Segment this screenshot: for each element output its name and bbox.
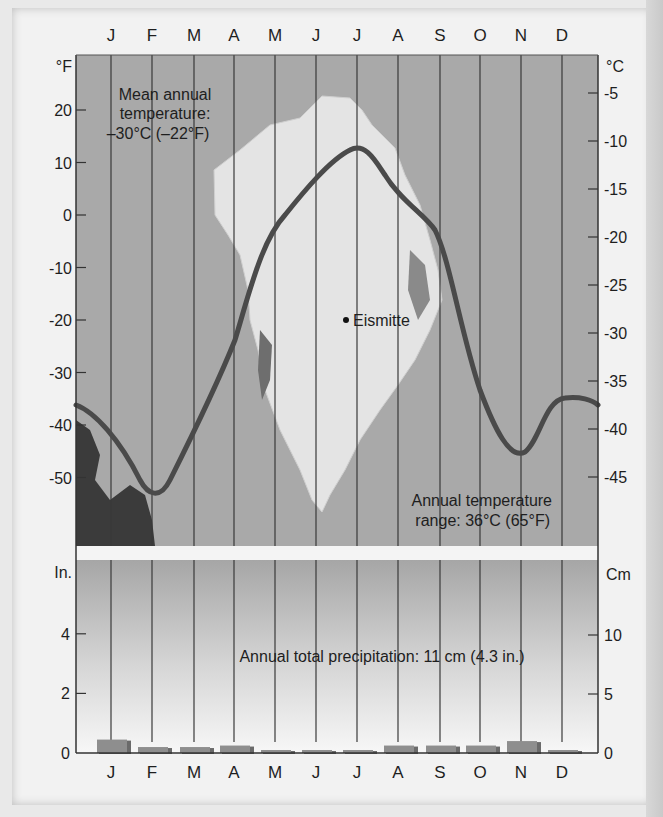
celsius-tick-labels: -5-10-15-20-25-30-35-40-45: [604, 85, 627, 486]
fahrenheit-tick-labels: 20100-10-20-30-40-50: [49, 102, 72, 487]
month-label: F: [147, 26, 157, 45]
tick-label: -25: [604, 277, 627, 294]
tick-label: -30: [49, 365, 72, 382]
month-label: J: [107, 763, 116, 782]
panel-separator: [76, 546, 598, 560]
month-labels-top: JFMAMJJASOND: [107, 26, 568, 45]
tick-label: 20: [54, 102, 72, 119]
month-label: J: [107, 26, 116, 45]
month-label: J: [312, 763, 321, 782]
month-label: J: [312, 26, 321, 45]
tick-label: 0: [63, 207, 72, 224]
tick-label: -35: [604, 373, 627, 390]
month-label: A: [228, 26, 240, 45]
eismitte-label: Eismitte: [353, 312, 410, 329]
inch-tick-labels: 420: [61, 626, 70, 762]
month-label: A: [392, 26, 404, 45]
month-label: F: [147, 763, 157, 782]
tick-label: -15: [604, 181, 627, 198]
mean-annual-temperature-label: Mean annual temperature: –30°C (–22°F): [107, 86, 212, 142]
cm-tick-labels: 1050: [604, 627, 622, 762]
tick-label: -40: [604, 421, 627, 438]
tick-label: -10: [604, 133, 627, 150]
cm-unit-label: Cm: [606, 566, 631, 583]
tick-label: -20: [604, 229, 627, 246]
tick-label: 0: [604, 745, 613, 762]
month-label: J: [353, 26, 362, 45]
month-label: N: [515, 26, 527, 45]
tick-label: -5: [604, 85, 618, 102]
precipitation-bar: [384, 746, 414, 753]
month-label: S: [434, 763, 445, 782]
eismitte-location-dot: [343, 317, 349, 323]
tick-label: 0: [61, 745, 70, 762]
precipitation-bar: [180, 747, 210, 753]
month-label: A: [228, 763, 240, 782]
tick-label: -30: [604, 325, 627, 342]
month-labels-bottom: JFMAMJJASOND: [107, 763, 568, 782]
tick-label: -40: [49, 417, 72, 434]
tick-label: 10: [54, 155, 72, 172]
month-label: M: [268, 26, 282, 45]
precipitation-bar: [97, 740, 127, 753]
tick-label: -50: [49, 470, 72, 487]
tick-label: 2: [61, 685, 70, 702]
month-label: M: [187, 763, 201, 782]
precipitation-bar: [466, 746, 496, 753]
annual-precipitation-label: Annual total precipitation: 11 cm (4.3 i…: [239, 648, 524, 665]
tick-label: 5: [604, 686, 613, 703]
svg-text:Annual temperature: Annual temperature: [411, 492, 552, 509]
month-label: S: [434, 26, 445, 45]
month-label: M: [187, 26, 201, 45]
month-label: D: [556, 763, 568, 782]
precipitation-bar: [426, 746, 456, 753]
tick-label: -10: [49, 260, 72, 277]
tick-label: -20: [49, 312, 72, 329]
svg-text:temperature:: temperature:: [120, 105, 211, 122]
celsius-unit-label: °C: [606, 58, 624, 75]
month-label: O: [473, 26, 486, 45]
month-label: N: [515, 763, 527, 782]
precipitation-bar: [220, 746, 250, 753]
month-label: J: [353, 763, 362, 782]
tick-label: -45: [604, 469, 627, 486]
tick-label: 4: [61, 626, 70, 643]
climograph: JFMAMJJASOND JFMAMJJASOND 20100-10-20-30…: [0, 0, 663, 817]
fahrenheit-unit-label: °F: [56, 58, 72, 75]
month-label: A: [392, 763, 404, 782]
month-label: O: [473, 763, 486, 782]
precipitation-bar: [507, 741, 537, 753]
svg-text:Mean annual: Mean annual: [119, 86, 212, 103]
precipitation-bar: [138, 747, 168, 753]
month-label: M: [268, 763, 282, 782]
svg-text:–30°C (–22°F): –30°C (–22°F): [107, 125, 210, 142]
month-label: D: [556, 26, 568, 45]
tick-label: 10: [604, 627, 622, 644]
svg-text:range: 36°C (65°F): range: 36°C (65°F): [415, 512, 550, 529]
inch-unit-label: In.: [54, 564, 72, 581]
